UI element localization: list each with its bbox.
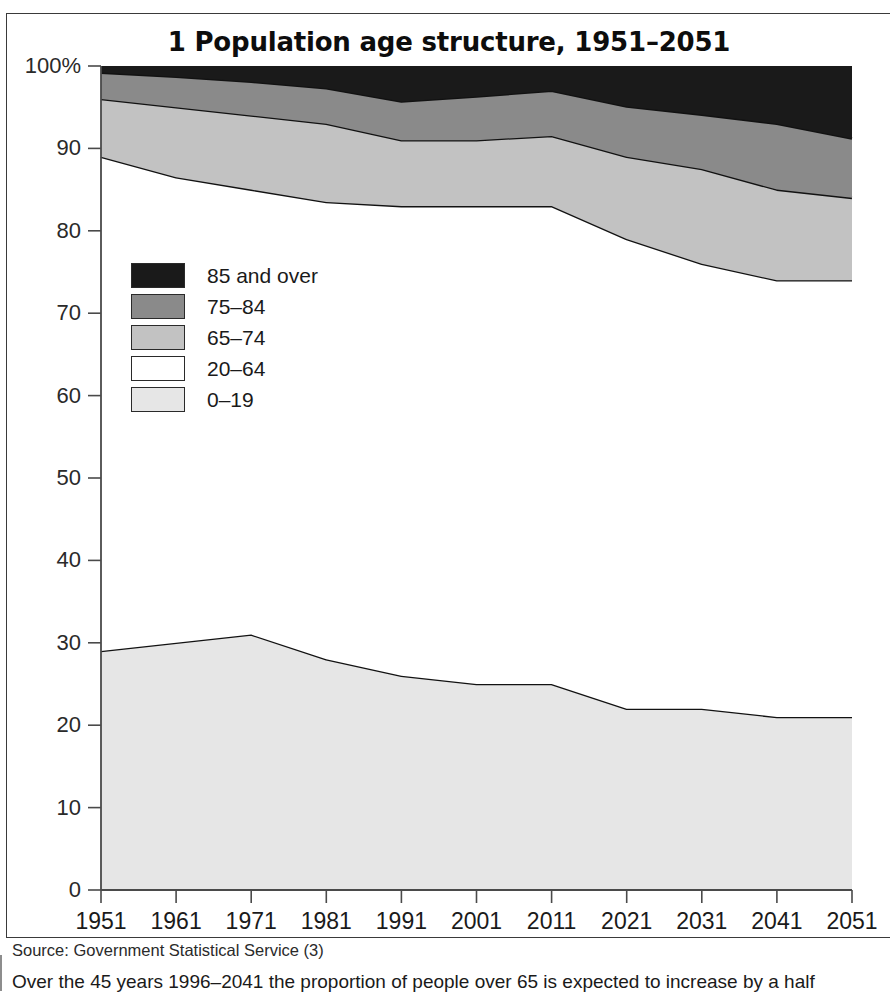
x-tick-label-2041: 2041: [751, 908, 802, 935]
y-tick-label-20: 20: [7, 712, 81, 738]
x-tick-label-2031: 2031: [676, 908, 727, 935]
y-tick-label-90: 90: [7, 135, 81, 161]
left-page-rule: [0, 955, 2, 991]
x-tick-label-1981: 1981: [301, 908, 352, 935]
y-tick-label-30: 30: [7, 630, 81, 656]
legend-item: 0–19: [131, 384, 371, 415]
x-tick-label-1951: 1951: [75, 908, 126, 935]
legend-item: 75–84: [131, 291, 371, 322]
y-tick-label-40: 40: [7, 547, 81, 573]
y-tick-label-0: 0: [7, 877, 81, 903]
legend-swatch-icon: [131, 263, 185, 288]
legend-item: 65–74: [131, 322, 371, 353]
y-tick-label-100pct: 100%: [7, 53, 81, 79]
legend-swatch-icon: [131, 325, 185, 350]
y-tick-label-60: 60: [7, 383, 81, 409]
stacked-area-chart-svg: [7, 14, 891, 939]
x-tick-label-2001: 2001: [451, 908, 502, 935]
x-tick-label-1971: 1971: [226, 908, 277, 935]
legend-swatch-icon: [131, 356, 185, 381]
area-bands: [101, 66, 852, 890]
x-tick-label-2051: 2051: [826, 908, 877, 935]
legend-swatch-icon: [131, 387, 185, 412]
x-tick-label-1991: 1991: [376, 908, 427, 935]
y-tick-label-10: 10: [7, 795, 81, 821]
legend-item-label: 65–74: [207, 326, 265, 350]
legend-item-label: 0–19: [207, 388, 254, 412]
plot-area: [7, 14, 891, 939]
legend-swatch-icon: [131, 294, 185, 319]
x-tick-label-2021: 2021: [601, 908, 652, 935]
y-tick-label-80: 80: [7, 218, 81, 244]
legend-item-label: 75–84: [207, 295, 265, 319]
x-tick-label-1961: 1961: [151, 908, 202, 935]
y-tick-label-70: 70: [7, 300, 81, 326]
figure-frame: 1 Population age structure, 1951–2051 01…: [6, 13, 890, 938]
legend-item: 20–64: [131, 353, 371, 384]
figure-caption: Over the 45 years 1996–2041 the proporti…: [12, 971, 815, 993]
legend-item-label: 20–64: [207, 357, 265, 381]
legend-item-label: 85 and over: [207, 264, 318, 288]
source-note: Source: Government Statistical Service (…: [12, 941, 324, 960]
chart-legend: 85 and over75–8465–7420–640–19: [131, 260, 371, 415]
legend-item: 85 and over: [131, 260, 371, 291]
x-tick-label-2011: 2011: [527, 908, 576, 935]
y-tick-label-50: 50: [7, 465, 81, 491]
